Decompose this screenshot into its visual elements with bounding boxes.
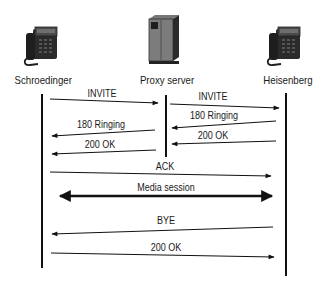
server-tower-icon — [149, 15, 179, 64]
message-label: 200 OK — [198, 130, 229, 141]
message-arrow — [52, 227, 273, 234]
message-label: INVITE — [87, 88, 116, 99]
message-arrow — [52, 130, 155, 136]
message-label: 200 OK — [151, 242, 182, 253]
message-label: INVITE — [198, 91, 227, 102]
sip-sequence-diagram: Schroedinger Proxy server Heisenberg INV… — [0, 0, 323, 289]
message-label: 180 Ringing — [77, 119, 125, 130]
message-arrow — [50, 172, 271, 176]
message-arrow — [172, 141, 276, 144]
message-label: ACK — [156, 161, 175, 172]
message-arrow — [50, 99, 158, 103]
message-arrow — [170, 104, 279, 108]
message-label: BYE — [157, 215, 175, 226]
message-arrow — [52, 150, 156, 154]
message-arrow — [51, 253, 274, 257]
message-label: 180 Ringing — [190, 110, 238, 121]
actor-label-schroedinger: Schroedinger — [14, 74, 71, 86]
message-label: Media session — [137, 182, 195, 193]
message-arrow — [172, 121, 276, 128]
actor-label-proxy: Proxy server — [137, 74, 198, 86]
actor-label-heisenberg: Heisenberg — [262, 74, 314, 86]
message-label: 200 OK — [85, 139, 116, 150]
desk-phone-icon — [25, 27, 57, 65]
desk-phone-icon — [268, 27, 300, 65]
